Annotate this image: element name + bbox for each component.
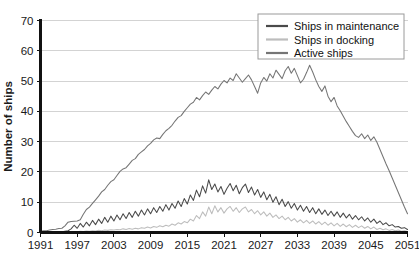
x-tick-label-2003: 2003 (101, 239, 127, 251)
legend-label-ships-in-docking: Ships in docking (294, 34, 374, 46)
chart-legend: Ships in maintenanceShips in dockingActi… (258, 14, 404, 59)
x-tick-label-2039: 2039 (321, 239, 347, 251)
y-tick-label-30: 30 (21, 136, 34, 148)
x-tick-label-1997: 1997 (64, 239, 90, 251)
y-tick-label-40: 40 (21, 105, 34, 117)
legend-label-active-ships: Active ships (294, 47, 353, 59)
x-tick-label-2015: 2015 (175, 239, 201, 251)
y-tick-label-20: 20 (21, 166, 34, 178)
y-tick-label-0: 0 (27, 227, 33, 239)
x-tick-label-2033: 2033 (285, 239, 311, 251)
line-chart: 1991199720032009201520212027203320392045… (0, 0, 419, 260)
y-tick-label-70: 70 (21, 15, 34, 27)
x-tick-label-2009: 2009 (138, 239, 164, 251)
x-tick-label-2045: 2045 (358, 239, 384, 251)
y-axis-title-text: Number of ships (2, 81, 14, 172)
x-tick-label-2027: 2027 (248, 239, 274, 251)
y-tick-label-10: 10 (21, 196, 34, 208)
x-tick-label-2021: 2021 (211, 239, 237, 251)
x-tick-label-1991: 1991 (28, 239, 54, 251)
y-tick-label-50: 50 (21, 75, 34, 87)
y-axis-title: Number of ships (2, 81, 14, 172)
x-tick-label-2051: 2051 (395, 239, 419, 251)
legend-label-ships-in-maintenance: Ships in maintenance (294, 20, 399, 32)
y-tick-label-60: 60 (21, 45, 34, 57)
chart-container: 1991199720032009201520212027203320392045… (0, 0, 419, 260)
